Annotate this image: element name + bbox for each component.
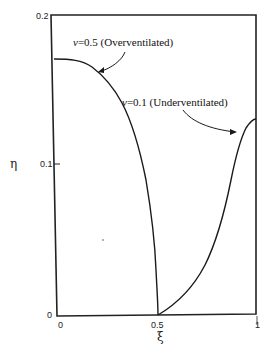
- plot-frame: [51, 15, 256, 316]
- arrowhead-underventilated: [230, 129, 237, 135]
- x-tick-label-1: 1: [255, 320, 260, 330]
- arrowhead-overventilated: [98, 67, 104, 73]
- scan-speck: [102, 239, 104, 241]
- y-tick-label-0.1: 0.1: [40, 159, 53, 169]
- curve-underventilated: [158, 119, 256, 315]
- y-tick-label-0.2: 0.2: [36, 11, 49, 21]
- x-tick-label-0.5: 0.5: [151, 320, 164, 330]
- arrow-underventilated: [183, 110, 235, 132]
- x-tick-label-0: 0: [58, 320, 63, 330]
- label-underventilated-text: =0.1 (Underventilated): [127, 96, 228, 109]
- label-overventilated-text: =0.5 (Overventilated): [78, 36, 174, 49]
- label-underventilated: ν=0.1 (Underventilated): [122, 96, 228, 109]
- chart: 0.2 0.1 0 0 0.5 1 η ξ ν=0.5 (Overventila…: [0, 0, 270, 346]
- label-overventilated: ν=0.5 (Overventilated): [73, 36, 174, 49]
- y-axis-label: η: [10, 157, 17, 171]
- y-tick-label-0: 0: [47, 310, 52, 320]
- x-axis-label: ξ: [157, 330, 164, 344]
